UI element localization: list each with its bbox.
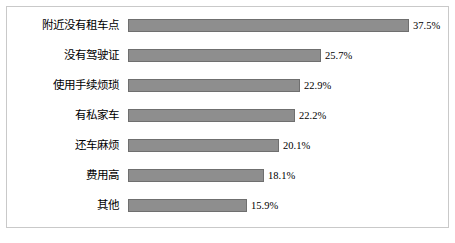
value-label-1: 25.7% xyxy=(325,51,352,62)
value-label-0: 37.5% xyxy=(413,21,440,32)
bar-chart: 附近没有租车点 37.5% 没有驾驶证 25.7% 使用手续烦琐 22.9% 有… xyxy=(0,0,455,243)
table-row: 使用手续烦琐 22.9% xyxy=(7,71,450,101)
bar-1 xyxy=(128,49,321,62)
plot-area-frame: 附近没有租车点 37.5% 没有驾驶证 25.7% 使用手续烦琐 22.9% 有… xyxy=(6,6,449,228)
bar-0 xyxy=(128,19,409,32)
category-label: 有私家车 xyxy=(7,110,119,122)
value-label-3: 22.2% xyxy=(299,111,326,122)
category-label: 费用高 xyxy=(7,170,119,182)
table-row: 附近没有租车点 37.5% xyxy=(7,11,450,41)
bar-rows: 附近没有租车点 37.5% 没有驾驶证 25.7% 使用手续烦琐 22.9% 有… xyxy=(7,7,450,229)
table-row: 没有驾驶证 25.7% xyxy=(7,41,450,71)
bar-3 xyxy=(128,109,295,122)
bar-2 xyxy=(128,79,300,92)
bar-5 xyxy=(128,169,264,182)
category-label: 使用手续烦琐 xyxy=(7,80,119,92)
category-label: 还车麻烦 xyxy=(7,140,119,152)
bar-4 xyxy=(128,139,279,152)
bar-6 xyxy=(128,199,247,212)
category-label: 没有驾驶证 xyxy=(7,50,119,62)
value-label-2: 22.9% xyxy=(304,81,331,92)
category-label: 其他 xyxy=(7,200,119,212)
table-row: 费用高 18.1% xyxy=(7,161,450,191)
value-label-4: 20.1% xyxy=(283,141,310,152)
value-label-5: 18.1% xyxy=(268,171,295,182)
table-row: 其他 15.9% xyxy=(7,191,450,221)
category-label: 附近没有租车点 xyxy=(7,20,119,32)
table-row: 还车麻烦 20.1% xyxy=(7,131,450,161)
table-row: 有私家车 22.2% xyxy=(7,101,450,131)
value-label-6: 15.9% xyxy=(251,201,278,212)
